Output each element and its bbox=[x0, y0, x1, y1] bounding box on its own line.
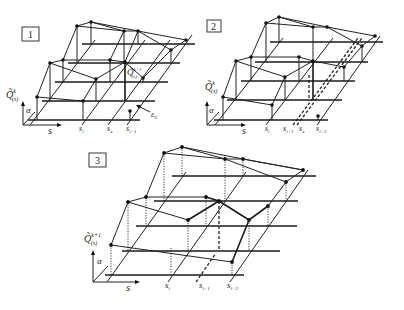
panel-2-y-axis-label: Q̃k(s) bbox=[205, 80, 217, 95]
panel-1-s-label-0: si bbox=[79, 124, 84, 134]
panel-2-alpha: α bbox=[209, 105, 214, 115]
panel-1: 1 bbox=[6, 20, 195, 136]
panel-2-s-label-2: se bbox=[299, 124, 305, 134]
panel-1-y-axis-label: Q̃k(s) bbox=[6, 88, 18, 103]
panel-3-s-label-2: si+2 bbox=[227, 280, 238, 291]
panel-3-number: 3 bbox=[95, 155, 100, 166]
panel-1-s-label-1: se bbox=[107, 124, 113, 134]
panel-1-inner-label: Q̃k+1(s) bbox=[127, 67, 142, 79]
diagram-canvas: 1 bbox=[0, 0, 404, 310]
panel-3: 3 bbox=[84, 145, 316, 293]
panel-1-s-label-2: si+1 bbox=[126, 124, 136, 134]
panel-3-alpha: α bbox=[97, 256, 102, 266]
panel-2-s-label-1: si+1 bbox=[283, 124, 293, 134]
panel-2: 2 bbox=[205, 15, 383, 136]
panel-1-x-axis-label: s bbox=[48, 125, 52, 136]
panel-2-x-axis-label: s bbox=[242, 125, 246, 136]
panel-1-alpha: α bbox=[26, 105, 31, 115]
panel-2-s-label-3: si+2 bbox=[316, 124, 327, 134]
panel-3-x-axis-label: s bbox=[126, 281, 130, 293]
panel-2-number: 2 bbox=[211, 21, 216, 32]
panel-3-y-axis-label: Q̃k+1(s) bbox=[84, 232, 101, 247]
panel-1-number: 1 bbox=[28, 29, 33, 40]
panel-1-eps-label: εS bbox=[151, 110, 157, 120]
panel-3-s-label-1: si+1 bbox=[199, 280, 210, 291]
panel-2-s-label-0: si bbox=[265, 124, 270, 134]
panel-3-s-label-0: si bbox=[165, 280, 171, 291]
